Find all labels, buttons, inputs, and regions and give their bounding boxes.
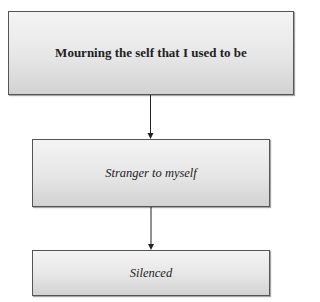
- node-label: Stranger to myself: [105, 166, 197, 181]
- flow-node-stranger-to-myself: Stranger to myself: [32, 139, 270, 207]
- node-label: Silenced: [130, 266, 172, 281]
- arrow-1: [148, 95, 154, 139]
- flow-node-silenced: Silenced: [32, 250, 270, 296]
- arrow-2: [148, 207, 154, 250]
